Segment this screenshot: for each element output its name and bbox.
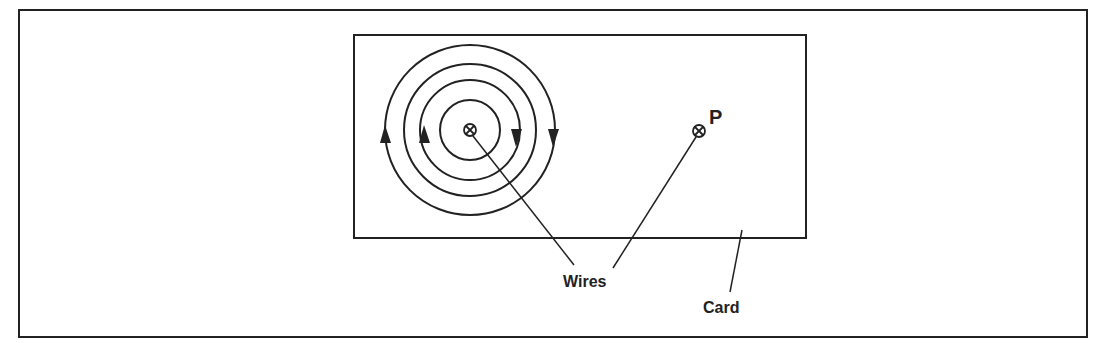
outer-frame	[19, 10, 1087, 337]
wire-cross-icon	[464, 124, 476, 136]
diagram-canvas: P Wires Card	[0, 0, 1105, 343]
point-p-label: P	[709, 106, 722, 128]
card-label: Card	[703, 299, 739, 316]
wire-p-cross-icon	[693, 125, 705, 137]
wires-label: Wires	[563, 273, 607, 290]
arrow-up-icon	[380, 125, 391, 143]
arrow-down-icon	[548, 129, 559, 147]
leader-lines	[473, 136, 742, 292]
